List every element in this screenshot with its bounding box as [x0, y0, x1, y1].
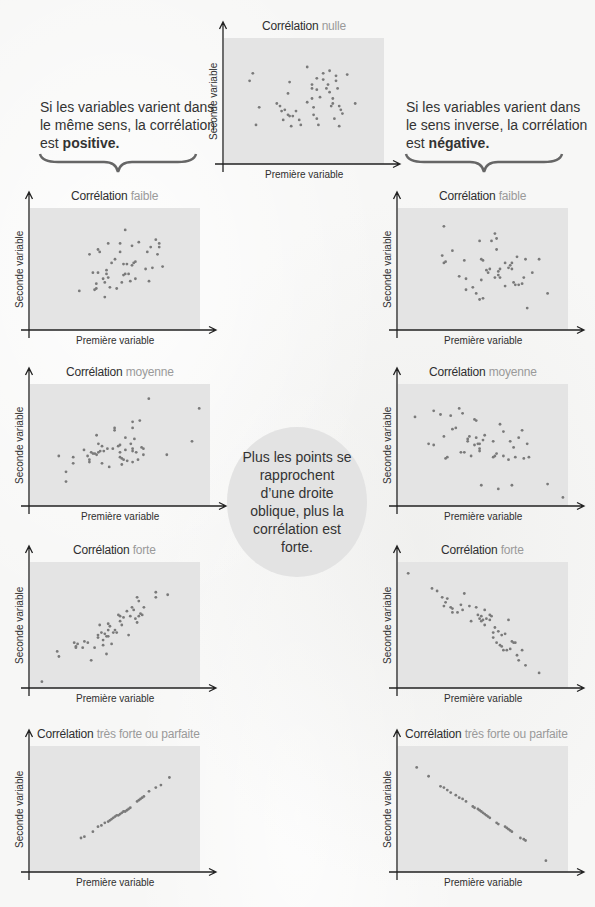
y-axis-label: Seconde variable — [382, 587, 393, 664]
data-point — [134, 260, 137, 263]
data-point — [546, 292, 549, 295]
data-point — [119, 444, 122, 447]
data-point — [439, 413, 442, 416]
data-point — [100, 631, 103, 634]
data-point — [475, 419, 478, 422]
data-point — [83, 835, 86, 838]
note-negative-bold: négative. — [429, 135, 490, 151]
center-callout-text: Plus les points se rapprochent d’une dro… — [242, 448, 352, 556]
data-point — [507, 458, 510, 461]
data-point — [138, 419, 141, 422]
data-point — [41, 680, 44, 683]
data-point — [124, 436, 127, 439]
data-point — [497, 488, 500, 491]
data-point — [505, 649, 508, 652]
data-point — [88, 461, 91, 464]
scatter-plot — [382, 540, 582, 710]
data-point — [490, 240, 493, 243]
data-point — [512, 281, 515, 284]
data-point — [456, 611, 459, 614]
chart-title: Corrélation moyenne — [66, 365, 174, 379]
data-point — [102, 639, 105, 642]
data-point — [466, 438, 469, 441]
data-point — [463, 259, 466, 262]
chart-title-qualifier: très forte ou parfaite — [97, 727, 200, 741]
y-axis-label: Seconde variable — [382, 407, 393, 484]
chart-positive-moyenne: Corrélation moyennePremière variableSeco… — [14, 362, 224, 528]
data-point — [509, 264, 512, 267]
data-point — [142, 453, 145, 456]
data-point — [132, 608, 135, 611]
data-point — [83, 640, 86, 643]
data-point — [311, 97, 314, 100]
data-point — [454, 794, 457, 797]
data-point — [488, 268, 491, 271]
data-point — [127, 272, 130, 275]
chart-negative-faible: Corrélation faiblePremière variableSecon… — [382, 186, 582, 352]
data-point — [275, 102, 278, 105]
x-axis-label: Première variable — [81, 511, 159, 522]
data-point — [119, 620, 122, 623]
data-point — [458, 407, 461, 410]
data-point — [110, 262, 113, 265]
data-point — [504, 285, 507, 288]
data-point — [502, 649, 505, 652]
data-point — [478, 298, 481, 301]
data-point — [109, 625, 112, 628]
data-point — [407, 572, 410, 575]
data-point — [432, 409, 435, 412]
data-point — [478, 450, 481, 453]
data-point — [279, 105, 282, 108]
data-point — [517, 659, 520, 662]
data-point — [86, 455, 89, 458]
data-point — [460, 603, 463, 606]
data-point — [339, 108, 342, 111]
data-point — [511, 268, 514, 271]
data-point — [526, 307, 529, 310]
data-point — [113, 429, 116, 432]
data-point — [122, 616, 125, 619]
data-point — [283, 108, 286, 111]
chart-title-main: Corrélation — [73, 543, 133, 557]
scatter-plot — [14, 186, 214, 352]
plot-area — [30, 746, 200, 872]
chart-title: Corrélation très forte ou parfaite — [405, 727, 568, 741]
data-point — [444, 601, 447, 604]
data-point — [315, 88, 318, 91]
x-axis-label: Première variable — [444, 693, 522, 704]
data-point — [483, 434, 486, 437]
x-axis-label: Première variable — [444, 511, 522, 522]
data-point — [470, 455, 473, 458]
data-point — [461, 798, 464, 801]
data-point — [480, 484, 483, 487]
data-point — [144, 268, 147, 271]
data-point — [451, 611, 454, 614]
data-point — [65, 480, 68, 483]
data-point — [443, 786, 446, 789]
data-point — [298, 119, 301, 122]
data-point — [522, 457, 525, 460]
data-point — [461, 412, 464, 415]
data-point — [311, 87, 314, 90]
data-point — [168, 776, 171, 779]
chart-positive-tres-forte: Corrélation très forte ou parfaitePremiè… — [14, 724, 214, 894]
data-point — [524, 839, 527, 842]
data-point — [483, 624, 486, 627]
data-point — [465, 800, 468, 803]
y-axis-label: Seconde variable — [14, 771, 25, 848]
data-point — [124, 448, 127, 451]
data-point — [494, 276, 497, 279]
data-point — [147, 397, 150, 400]
data-point — [354, 102, 357, 105]
data-point — [497, 274, 500, 277]
data-point — [122, 458, 125, 461]
data-point — [97, 442, 100, 445]
data-point — [502, 455, 505, 458]
data-point — [107, 629, 110, 632]
data-point — [509, 440, 512, 443]
data-point — [465, 277, 468, 280]
chart-title-qualifier: forte — [133, 543, 156, 557]
data-point — [497, 630, 500, 633]
data-point — [482, 619, 485, 622]
data-point — [338, 125, 341, 128]
